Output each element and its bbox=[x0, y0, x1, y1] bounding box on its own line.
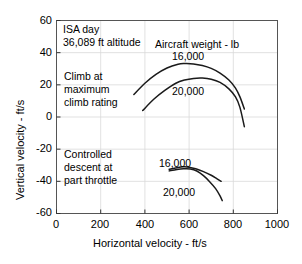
y-tick-label: 60 bbox=[22, 15, 52, 26]
y-tick-label: 0 bbox=[22, 111, 52, 122]
annotation-descent-line3: part throttle bbox=[64, 174, 117, 187]
curve-label-descent-20000: 20,000 bbox=[163, 187, 195, 198]
x-tick-label: 0 bbox=[36, 219, 76, 230]
x-tick-label: 1000 bbox=[257, 219, 297, 230]
y-tick-label: 40 bbox=[22, 47, 52, 58]
chart-figure: 60 40 20 0 -20 -40 -60 0 200 400 600 800… bbox=[0, 0, 302, 264]
x-tick-label: 600 bbox=[169, 219, 209, 230]
x-tick-label: 800 bbox=[213, 219, 253, 230]
annotation-weight-header: Aircraft weight - lb bbox=[155, 38, 239, 51]
x-tick-label: 200 bbox=[80, 219, 120, 230]
x-axis-title: Horizontal velocity - ft/s bbox=[93, 237, 207, 249]
y-tick-label: 20 bbox=[22, 79, 52, 90]
annotation-climb-line1: Climb at bbox=[64, 70, 103, 83]
annotation-conditions-line2: 36,089 ft altitude bbox=[63, 36, 141, 49]
annotation-conditions-line1: ISA day bbox=[63, 23, 99, 36]
annotation-descent-line2: descent at bbox=[64, 161, 112, 174]
annotation-descent-line1: Controlled bbox=[64, 148, 112, 161]
y-tick-label: -40 bbox=[22, 175, 52, 186]
y-axis-title: Vertical velocity - ft/s bbox=[14, 100, 26, 200]
curve-label-climb-16000: 16,000 bbox=[172, 51, 204, 62]
annotation-climb-line3: climb rating bbox=[64, 96, 118, 109]
curve-label-descent-16000: 16,000 bbox=[159, 158, 191, 169]
annotation-climb-line2: maximum bbox=[64, 83, 110, 96]
y-tick-label: -20 bbox=[22, 143, 52, 154]
curve-label-climb-20000: 20,000 bbox=[172, 86, 204, 97]
x-tick-label: 400 bbox=[125, 219, 165, 230]
y-tick-label: -60 bbox=[22, 207, 52, 218]
